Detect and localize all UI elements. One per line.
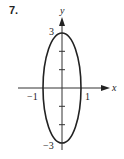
y-axis-label: y: [60, 6, 64, 16]
y-axis-arrow-icon: [59, 17, 65, 26]
x-tick-label-left: −1: [27, 92, 38, 102]
x-axis-label: x: [112, 83, 116, 93]
y-tick-label-bottom: −3: [43, 141, 54, 151]
ellipse-diagram: 7. y x 3 −3 −1 1: [0, 0, 124, 159]
problem-number: 7.: [9, 5, 18, 16]
x-axis-arrow-icon: [101, 85, 110, 91]
y-tick-label-top: 3: [49, 27, 54, 37]
diagram-canvas: [0, 0, 124, 159]
x-tick-label-right: 1: [85, 92, 90, 102]
